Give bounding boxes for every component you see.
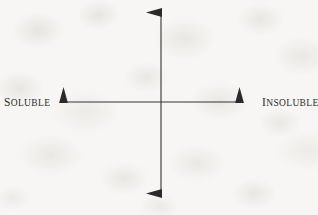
axis-label-soluble-initial: S <box>4 96 11 108</box>
axis-label-soluble-rest: OLUBLE <box>11 98 51 108</box>
axis-label-insoluble-rest: NSOLUBLE <box>266 98 318 108</box>
diagram-canvas: SOLUBLE INSOLUBLE <box>0 0 318 215</box>
axis-label-insoluble: INSOLUBLE <box>262 97 318 109</box>
axis-label-soluble: SOLUBLE <box>4 97 50 109</box>
